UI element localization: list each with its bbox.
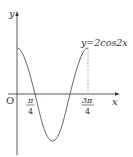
tick-pi4-denominator: 4 <box>28 107 33 116</box>
cosine-graph: y x O π 4 3π 4 y=2cos2x <box>0 0 133 157</box>
x-axis-label: x <box>112 96 118 107</box>
tick-pi4-numerator: π <box>27 96 34 105</box>
curve-2cos2x <box>17 48 88 141</box>
origin-label: O <box>6 95 14 106</box>
y-axis-label: y <box>8 8 15 19</box>
tick-3pi4-numerator: 3π <box>82 96 93 105</box>
equation-label: y=2cos2x <box>80 37 128 48</box>
y-axis-arrow-icon <box>15 11 18 16</box>
tick-3pi4-denominator: 4 <box>85 107 90 116</box>
